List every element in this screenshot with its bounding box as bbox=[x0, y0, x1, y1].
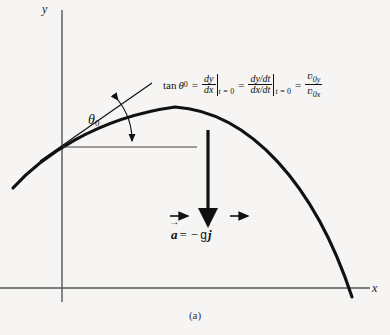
eval-condition-2: t = 0 bbox=[275, 87, 291, 96]
equals-2: = bbox=[238, 79, 244, 91]
dxdt-denominator: dx/dt bbox=[248, 85, 272, 96]
eval-bar-line-1 bbox=[217, 74, 218, 96]
theta-subscript: 0 bbox=[95, 118, 100, 128]
tangent-formula: tan θ0 = dy dx t = 0 = dy/dt dx/dt t = 0… bbox=[163, 70, 322, 100]
projectile-motion-figure: y x θ0 tan θ0 = dy dx t = 0 = dy/dt dx/d… bbox=[0, 0, 390, 335]
v0y-subscript: 0y bbox=[313, 75, 321, 84]
eval-bar-line-2 bbox=[273, 74, 274, 96]
acceleration-equals: = bbox=[180, 227, 187, 242]
eval-var-2: t bbox=[275, 87, 277, 96]
eval-eq-2: = bbox=[280, 87, 285, 96]
figure-canvas bbox=[0, 0, 390, 335]
eval-eq-1: = bbox=[223, 87, 228, 96]
x-axis-label: x bbox=[372, 281, 377, 296]
eval-condition-1: t = 0 bbox=[219, 87, 235, 96]
theta-symbol: θ bbox=[88, 112, 95, 127]
velocity-component-ratio: ʋ0y ʋ0x bbox=[305, 70, 322, 100]
acceleration-symbol: a bbox=[171, 227, 178, 243]
tan-function: tan bbox=[163, 79, 176, 91]
formula-theta-subscript: 0 bbox=[184, 80, 188, 89]
trajectory-curve bbox=[13, 107, 352, 297]
v0x-denominator: ʋ0x bbox=[305, 85, 322, 99]
equals-3: = bbox=[295, 79, 301, 91]
y-axis-label: y bbox=[42, 2, 47, 17]
gravity-symbol: g bbox=[200, 228, 207, 242]
eval-var-1: t bbox=[219, 87, 221, 96]
figure-caption: (a) bbox=[0, 309, 390, 321]
derivative-ratio-dt: dy/dt dx/dt bbox=[248, 74, 272, 96]
eval-value-2: 0 bbox=[287, 87, 291, 96]
j-unit-vector: j bbox=[208, 227, 212, 243]
v0y-numerator: ʋ0y bbox=[305, 70, 322, 85]
acceleration-minus: − bbox=[191, 227, 198, 242]
derivative-dy-dx: dy dx bbox=[202, 74, 215, 96]
acceleration-vector-label: a=−gj bbox=[171, 227, 212, 243]
evaluation-bar-1: t = 0 bbox=[217, 74, 235, 96]
evaluation-bar-2: t = 0 bbox=[273, 74, 291, 96]
dx-denominator: dx bbox=[202, 85, 215, 96]
v0x-subscript: 0x bbox=[313, 90, 321, 99]
eval-value-1: 0 bbox=[230, 87, 234, 96]
theta-zero-label: θ0 bbox=[88, 112, 99, 128]
equals-1: = bbox=[192, 79, 198, 91]
